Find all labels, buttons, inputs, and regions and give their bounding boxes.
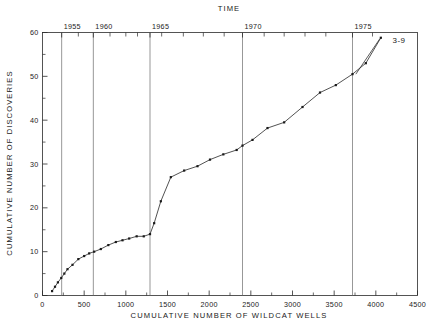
- data-point: [66, 268, 68, 270]
- data-point: [121, 239, 123, 241]
- chart-figure: 0500100015002000250030003500400045000102…: [0, 0, 440, 323]
- top-tick-label: 1965: [152, 22, 169, 31]
- annotation-label: 3-9: [393, 36, 406, 45]
- data-point: [335, 84, 337, 86]
- y-tick-label: 0: [34, 291, 38, 300]
- data-point: [57, 281, 59, 283]
- y-tick-label: 60: [30, 28, 39, 37]
- x-tick-label: 1500: [159, 300, 176, 309]
- y-tick-label: 30: [30, 160, 39, 169]
- data-point: [60, 277, 62, 279]
- axis-tick-labels: 0500100015002000250030003500400045000102…: [30, 22, 426, 309]
- x-tick-label: 3000: [284, 300, 301, 309]
- top-axis-title: TIME: [218, 4, 241, 13]
- plot-frame: [43, 33, 418, 296]
- x-axis-title: CUMULATIVE NUMBER OF WILDCAT WELLS: [131, 311, 328, 320]
- data-point: [128, 237, 130, 239]
- data-point: [251, 139, 253, 141]
- data-point: [115, 241, 117, 243]
- x-tick-label: 500: [78, 300, 91, 309]
- data-point: [365, 62, 367, 64]
- data-point: [266, 127, 268, 129]
- data-series: [51, 37, 382, 293]
- data-point: [77, 258, 79, 260]
- data-point: [51, 290, 53, 292]
- annotation-leader-line: [356, 39, 380, 74]
- data-point: [380, 37, 382, 39]
- data-point: [183, 169, 185, 171]
- x-tick-label: 2500: [242, 300, 259, 309]
- top-tick-label: 1960: [95, 22, 112, 31]
- data-point: [93, 251, 95, 253]
- top-tick-label: 1970: [245, 22, 262, 31]
- data-point: [83, 255, 85, 257]
- data-point: [170, 176, 172, 178]
- x-tick-label: 0: [40, 300, 44, 309]
- top-tick-label: 1955: [64, 22, 81, 31]
- x-tick-label: 4500: [409, 300, 426, 309]
- axis-ticks: [43, 33, 418, 296]
- data-point: [222, 153, 224, 155]
- data-point: [88, 252, 90, 254]
- series-annotation: 3-9: [356, 36, 406, 74]
- x-tick-label: 4000: [367, 300, 384, 309]
- data-point: [241, 144, 243, 146]
- y-tick-label: 50: [30, 72, 39, 81]
- x-tick-label: 3500: [326, 300, 343, 309]
- data-point: [351, 73, 353, 75]
- data-point: [107, 244, 109, 246]
- data-point: [209, 159, 211, 161]
- y-tick-label: 10: [30, 247, 39, 256]
- year-gridlines: [62, 33, 353, 296]
- y-axis-title: CUMULATIVE NUMBER OF DISCOVERIES: [5, 70, 14, 255]
- data-point: [100, 248, 102, 250]
- y-tick-label: 40: [30, 116, 39, 125]
- data-point: [149, 233, 151, 235]
- plot-border: [43, 33, 418, 296]
- y-tick-label: 20: [30, 203, 39, 212]
- data-point: [283, 121, 285, 123]
- data-point: [301, 106, 303, 108]
- series-line-3-9: [52, 38, 381, 291]
- data-point: [71, 264, 73, 266]
- x-tick-label: 2000: [201, 300, 218, 309]
- x-tick-label: 1000: [117, 300, 134, 309]
- top-tick-label: 1975: [355, 22, 372, 31]
- data-point: [136, 235, 138, 237]
- data-point: [63, 272, 65, 274]
- data-point: [196, 165, 198, 167]
- data-point: [54, 286, 56, 288]
- discovery-curve-chart: 0500100015002000250030003500400045000102…: [0, 0, 440, 323]
- data-point: [319, 91, 321, 93]
- data-point: [153, 222, 155, 224]
- data-point: [236, 149, 238, 151]
- data-point: [143, 235, 145, 237]
- data-point: [160, 200, 162, 202]
